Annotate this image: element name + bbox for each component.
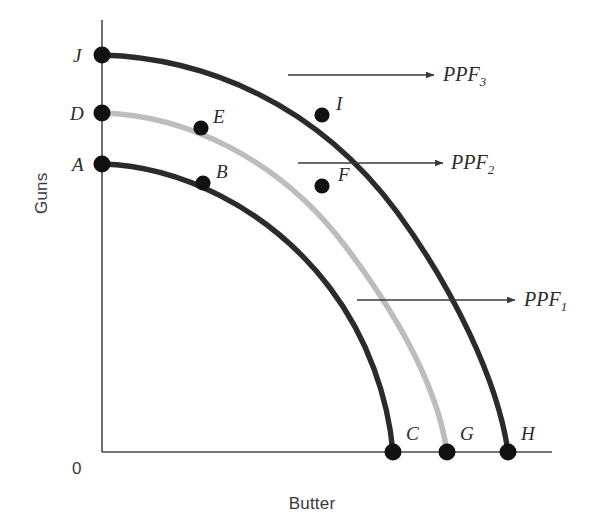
origin-label: 0 <box>72 459 81 479</box>
data-point-H <box>500 444 517 461</box>
point-label-H: H <box>521 424 535 443</box>
ppf1-label-base: PPF <box>524 288 561 310</box>
ppf2-label-sub: 2 <box>488 162 495 177</box>
point-label-J: J <box>73 46 81 65</box>
data-point-J <box>94 47 111 64</box>
data-point-B <box>195 175 210 190</box>
data-point-A <box>94 156 111 173</box>
ppf-figure: Guns Butter 0 J D A E B I F C G H PPF3 P… <box>0 0 595 529</box>
y-axis-title: Guns <box>32 124 52 214</box>
ppf3-label: PPF3 <box>443 64 486 88</box>
data-point-C <box>385 444 402 461</box>
ppf-plot-canvas <box>0 0 595 529</box>
ppf3-label-base: PPF <box>443 63 480 85</box>
data-point-G <box>439 444 456 461</box>
data-point-D <box>94 105 111 122</box>
point-label-C: C <box>406 424 419 443</box>
point-label-A: A <box>72 155 84 174</box>
ppf2-label: PPF2 <box>451 152 494 176</box>
ppf2-curve <box>102 113 447 452</box>
point-label-I: I <box>336 94 342 113</box>
point-label-E: E <box>213 107 225 126</box>
point-label-D: D <box>70 104 84 123</box>
ppf1-label: PPF1 <box>524 289 567 313</box>
ppf3-curve <box>102 55 508 452</box>
data-point-F <box>314 178 329 193</box>
point-label-F: F <box>338 165 350 184</box>
ppf1-curve <box>102 164 393 452</box>
point-label-G: G <box>460 424 474 443</box>
x-axis-title: Butter <box>272 494 352 514</box>
data-point-E <box>193 120 208 135</box>
data-point-I <box>314 107 329 122</box>
ppf3-label-sub: 3 <box>480 74 487 89</box>
ppf2-label-base: PPF <box>451 151 488 173</box>
point-label-B: B <box>216 162 228 181</box>
ppf1-label-sub: 1 <box>561 299 568 314</box>
